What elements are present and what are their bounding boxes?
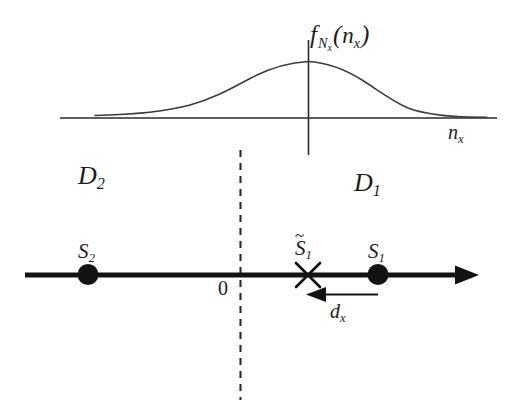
- signal-axis-group: [25, 263, 479, 287]
- tilde-accent-glyph: ~: [295, 228, 304, 245]
- density-f-symbol: f: [310, 21, 318, 48]
- displacement-label: dx: [330, 301, 346, 321]
- density-argument: n: [342, 23, 354, 48]
- signal-marker-s2: [78, 264, 99, 285]
- density-f-sub-subscript: x: [327, 42, 331, 53]
- origin-label: 0: [218, 278, 228, 298]
- density-close-paren: ): [360, 21, 370, 48]
- signal-label-s2: S2: [78, 241, 95, 262]
- diagram-canvas: [0, 0, 517, 413]
- signal-label-s1-tilde: ~S1: [295, 238, 312, 259]
- region-d2-symbol: D: [78, 161, 97, 190]
- density-argument-subscript: x: [354, 35, 360, 51]
- density-function-label: fNx(nx): [310, 22, 370, 47]
- region-d1-subscript: 1: [373, 182, 381, 199]
- density-open-paren: (: [332, 21, 342, 48]
- signal-s1-tilde-subscript: 1: [306, 247, 313, 262]
- signal-s2-subscript: 2: [89, 250, 96, 265]
- displacement-subscript: x: [340, 311, 346, 325]
- tilde-accent-wrapper: ~S: [295, 238, 306, 259]
- displacement-arrowhead: [306, 287, 326, 302]
- signal-s1-subscript: 1: [379, 250, 386, 265]
- region-d1-symbol: D: [354, 168, 373, 197]
- density-axis-label: nx: [448, 122, 464, 142]
- density-plot-group: [60, 40, 497, 155]
- displacement-symbol: d: [330, 300, 340, 322]
- axis-label-subscript: x: [458, 132, 464, 146]
- decision-region-label-d1: D1: [354, 170, 381, 196]
- signal-axis-arrowhead: [455, 266, 479, 285]
- signal-marker-s1: [368, 264, 389, 285]
- signal-label-s1: S1: [368, 241, 385, 262]
- signal-detection-diagram: fNx(nx) nx D2 D1 S2 ~S1 S1 0 dx: [0, 0, 517, 413]
- signal-s2-symbol: S: [78, 239, 89, 263]
- gaussian-density-curve: [95, 62, 487, 118]
- displacement-arrow-group: [306, 287, 378, 302]
- axis-label-symbol: n: [448, 121, 458, 143]
- region-d2-subscript: 2: [97, 175, 105, 192]
- decision-region-label-d2: D2: [78, 163, 105, 189]
- signal-s1-symbol: S: [368, 239, 379, 263]
